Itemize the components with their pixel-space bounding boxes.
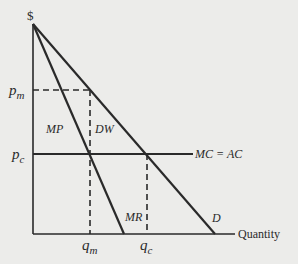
x-axis-label: Quantity — [238, 227, 280, 241]
pm-label: pm — [8, 82, 25, 101]
monopoly-diagram: $ pm pc qm qc MP DW MC = AC MR D Quantit… — [0, 0, 298, 264]
pc-label: pc — [11, 146, 25, 165]
deadweight-loss-label: DW — [94, 122, 115, 136]
mr-label: MR — [124, 210, 143, 224]
y-axis-label: $ — [27, 8, 34, 23]
mc-ac-label: MC = AC — [194, 147, 243, 161]
qm-label: qm — [82, 237, 98, 256]
monopoly-profit-label: MP — [45, 122, 64, 136]
qc-label: qc — [140, 237, 153, 256]
demand-label: D — [211, 211, 221, 225]
